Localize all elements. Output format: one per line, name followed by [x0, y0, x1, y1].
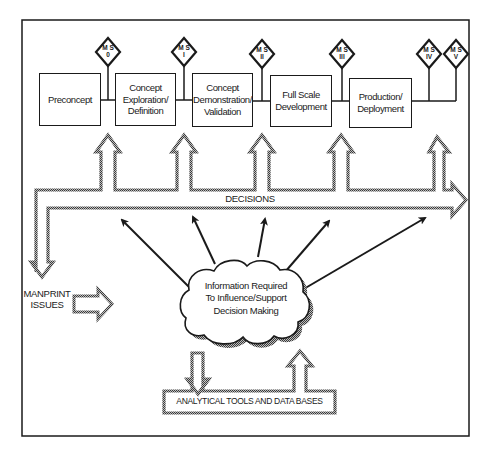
phase-production-deployment: Production/ Deployment	[349, 78, 412, 128]
cloud-text: Information Required To Influence/Suppor…	[184, 280, 308, 317]
influence-arrow-3	[258, 219, 265, 257]
milestone-label-1: M S I	[174, 45, 194, 59]
manprint-issues-label: MANPRINT ISSUES	[22, 289, 72, 311]
milestone-label-4: M S IV	[419, 47, 439, 61]
phase-label: Preconcept	[48, 94, 92, 106]
phase-full-scale-development: Full Scale Development	[270, 75, 332, 127]
decisions-label: DECISIONS	[210, 194, 290, 205]
phase-concept-demonstration: Concept Demonstration/ Validation	[192, 73, 253, 127]
phase-label: Full Scale Development	[273, 89, 329, 113]
manprint-arrow-icon	[74, 289, 112, 319]
phase-label: Concept Demonstration/ Validation	[193, 82, 252, 118]
influence-arrow-5	[302, 218, 425, 290]
phase-label: Production/ Deployment	[353, 91, 409, 115]
phase-label: Concept Exploration/ Definition	[120, 82, 172, 118]
diagram-canvas	[0, 0, 492, 457]
influence-arrow-1	[122, 220, 190, 288]
decisions-band	[31, 135, 466, 277]
analytical-tools-label: ANALYTICAL TOOLS AND DATA BASES	[166, 397, 333, 407]
milestone-label-2: M S II	[252, 47, 272, 61]
phase-concept-exploration: Concept Exploration/ Definition	[115, 73, 176, 126]
milestone-label-0: M S 0	[98, 45, 118, 59]
milestone-label-5: M S V	[446, 47, 466, 61]
milestone-diamonds	[96, 38, 468, 68]
influence-arrow-4	[285, 221, 329, 272]
influence-arrow-2	[193, 217, 215, 264]
milestone-label-3: M S III	[332, 47, 352, 61]
phase-preconcept: Preconcept	[39, 73, 101, 126]
